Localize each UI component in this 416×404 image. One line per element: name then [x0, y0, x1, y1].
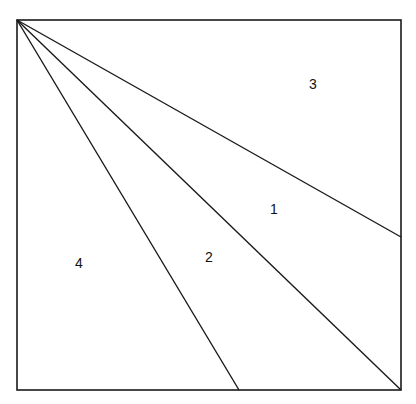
- region-label-3: 3: [309, 76, 317, 92]
- geometry-diagram: 1 2 3 4: [0, 0, 416, 404]
- region-label-2: 2: [205, 249, 213, 265]
- region-label-4: 4: [75, 255, 83, 271]
- region-label-1: 1: [270, 201, 278, 217]
- line-to-bottom: [17, 20, 239, 390]
